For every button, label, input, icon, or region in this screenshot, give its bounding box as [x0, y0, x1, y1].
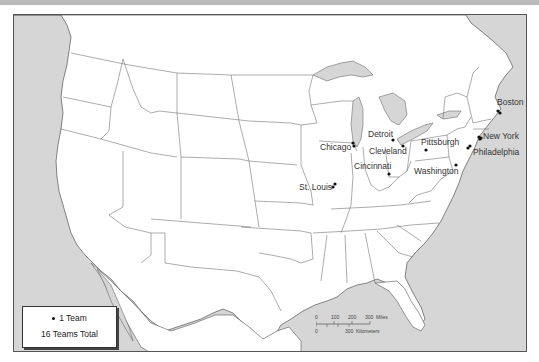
- scale-bar: 0 100 200 300 Miles 0 300 Kilometers: [315, 314, 425, 336]
- city-label-detroit: Detroit: [368, 130, 393, 139]
- city-label-washington: Washington: [414, 167, 459, 176]
- city-dot-new-york-3: [478, 137, 481, 140]
- city-dots-layer: [14, 15, 527, 352]
- city-label-cincinnati: Cincinnati: [354, 162, 391, 171]
- legend-box: 1 Team 16 Teams Total: [22, 306, 117, 348]
- team-dot-icon: [52, 317, 55, 320]
- city-dot-pittsburgh: [424, 148, 427, 151]
- scale-km-tick-300: 300: [345, 328, 353, 334]
- map-frame: [13, 14, 527, 352]
- city-dot-st-louis: [333, 182, 336, 185]
- city-dot-boston-2: [498, 111, 501, 114]
- scale-bar-graphic: [316, 320, 376, 328]
- scale-miles-unit: Miles: [376, 314, 388, 320]
- top-bar: [0, 0, 539, 5]
- city-dot-chicago-2: [352, 144, 355, 147]
- city-label-new-york: New York: [483, 132, 519, 141]
- city-dot-cincinnati: [387, 172, 390, 175]
- legend-symbol-row: 1 Team: [23, 313, 116, 323]
- city-label-st-louis: St. Louis: [299, 183, 332, 192]
- city-label-pittsburgh: Pittsburgh: [421, 138, 459, 147]
- city-label-cleveland: Cleveland: [369, 147, 407, 156]
- city-dot-philadelphia-2: [466, 146, 469, 149]
- legend-total: 16 Teams Total: [23, 329, 116, 339]
- city-label-philadelphia: Philadelphia: [473, 148, 519, 157]
- city-label-boston: Boston: [497, 98, 523, 107]
- legend-symbol-label: 1 Team: [59, 313, 87, 323]
- city-label-chicago: Chicago: [320, 143, 351, 152]
- scale-km-unit: Kilometers: [356, 328, 380, 334]
- scale-km-tick-0: 0: [315, 328, 318, 334]
- city-dot-chicago: [351, 141, 354, 144]
